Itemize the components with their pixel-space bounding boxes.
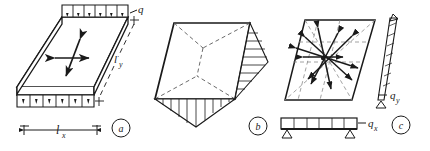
panel-tag-c: c [399, 120, 404, 131]
moment-center-c [321, 56, 325, 60]
panel-tag-a: a [119, 123, 124, 134]
engineering-figure: q l y l x a [0, 0, 430, 151]
support-right-x-c [345, 130, 355, 138]
deflection-profile-bottom-b [155, 99, 235, 127]
dimension-lx-a [20, 125, 101, 135]
slab-front-edge-a [17, 87, 94, 95]
load-label-leader-a [130, 10, 137, 13]
panel-c: q y q x c [281, 14, 410, 138]
span-y-sub-a: y [118, 60, 123, 69]
load-sub-x-c: x [373, 124, 378, 133]
panel-tag-b: b [256, 121, 261, 132]
load-sub-y-c: y [395, 96, 400, 105]
slab-outline-b [155, 23, 250, 99]
panel-b: b [155, 23, 268, 135]
figure-root: q l y l x a [0, 0, 430, 151]
support-bottom-y-c [376, 101, 386, 108]
support-left-x-c [282, 130, 292, 138]
panel-a: q l y l x a [17, 3, 144, 140]
span-x-sub-a: x [61, 131, 66, 140]
span-y-label-a: l [114, 53, 117, 65]
load-label-a: q [138, 3, 144, 15]
strip-beam-y-c [378, 18, 397, 100]
